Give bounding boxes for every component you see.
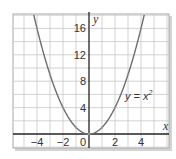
svg-text:8: 8	[80, 75, 86, 87]
parabola-chart: −4−2024 481216 x y y = x2	[0, 0, 176, 159]
svg-text:−4: −4	[31, 136, 44, 148]
svg-text:4: 4	[80, 102, 86, 114]
svg-text:2: 2	[112, 136, 118, 148]
equation-label: y = x2	[124, 89, 153, 102]
svg-text:4: 4	[138, 136, 144, 148]
svg-text:0: 0	[80, 136, 86, 148]
svg-text:16: 16	[74, 22, 86, 34]
y-axis-label: y	[92, 12, 99, 26]
equation-base: y = x	[124, 90, 149, 102]
svg-text:12: 12	[74, 49, 86, 61]
x-axis-label: x	[162, 119, 169, 133]
svg-text:−2: −2	[57, 136, 70, 148]
equation-exponent: 2	[148, 89, 153, 96]
